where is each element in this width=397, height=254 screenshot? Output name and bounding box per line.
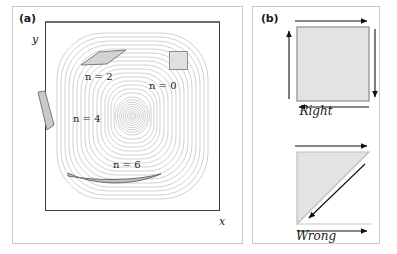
wrong-triangle (297, 152, 369, 224)
fluid-element-label-n2: n = 2 (85, 71, 113, 82)
right-square (297, 27, 369, 101)
panel-a-tag: (a) (19, 12, 36, 25)
orientation-caption-right: Right (253, 104, 379, 118)
orientation-diagrams-svg (253, 7, 381, 245)
fluid-element-label-n6: n = 6 (113, 159, 141, 170)
panel-b: (b) Right Wrong (252, 6, 380, 244)
figure-container: (a) y x (0, 0, 397, 254)
fluid-element-n4 (33, 89, 59, 133)
axis-label-x: x (219, 215, 225, 228)
fluid-element-label-n4: n = 4 (73, 113, 101, 124)
orientation-caption-wrong: Wrong (253, 229, 379, 243)
axis-label-y: y (32, 33, 38, 46)
fluid-element-n2 (79, 47, 129, 69)
fluid-element-n6 (65, 167, 165, 187)
fluid-element-n0 (169, 51, 188, 70)
fluid-element-label-n0: n = 0 (149, 80, 177, 91)
panel-a: (a) y x (12, 6, 243, 244)
